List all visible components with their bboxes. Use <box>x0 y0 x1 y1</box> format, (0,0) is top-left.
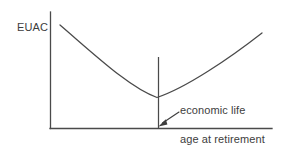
euac-curve-path <box>60 25 262 98</box>
economic-life-arrow-head <box>159 119 168 126</box>
x-axis-label: age at retirement <box>180 133 265 146</box>
y-axis-label: EUAC <box>17 21 48 34</box>
figure-container: EUAC economic life age at retirement <box>0 0 284 153</box>
economic-life-annotation-label: economic life <box>180 104 246 117</box>
